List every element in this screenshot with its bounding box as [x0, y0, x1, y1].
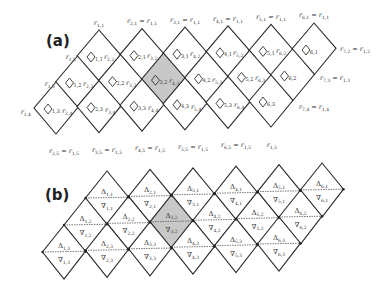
panel-a-rhombus-lattice: 1,12,13,14,15,16,11,22,23,24,25,26,21,32…: [21, 11, 371, 156]
cell-index: 6,2: [289, 75, 297, 81]
cell-index: 3,2: [160, 79, 168, 85]
cell-index: 6,1: [310, 49, 318, 55]
panel-b-triangle-lattice: Δ1,1∇1,1Δ2,1∇2,1Δ3,1∇3,1Δ4,1∇4,1Δ5,1∇5,1…: [41, 163, 344, 279]
vertex-label: r7,3 = r1,3: [320, 74, 350, 83]
cell-index: 2,1: [138, 54, 146, 60]
vertex-label: r1,5: [267, 141, 277, 150]
vertex-label: r2,1 = r1,1: [127, 17, 157, 26]
cell-index: 1,1: [95, 56, 103, 62]
vertex-label: r3,1 = r1,1: [170, 16, 200, 25]
vertex-label: r3,5 = r1,5: [92, 146, 122, 155]
vertex-label: r5,5 = r1,5: [178, 143, 208, 152]
cell-index: 5,1: [267, 50, 275, 56]
vertex-label: r4,5 = r1,5: [135, 144, 165, 153]
cell-index: 6,3: [267, 101, 275, 107]
cell-index: 4,1: [224, 51, 232, 57]
vertex-label: r1,1: [94, 19, 104, 28]
vertex-label: r1,3: [45, 80, 55, 89]
cell-index: 2,2: [117, 80, 125, 86]
vertex-label: r1,2: [66, 53, 76, 62]
cell-index: 4,3: [181, 103, 189, 109]
cell-index: 5,2: [246, 76, 254, 82]
cell-index: 1,2: [74, 82, 82, 88]
cell-index: 2,3: [95, 106, 103, 112]
cell-index: 5,3: [224, 102, 232, 108]
vertex-label: r6,5 = r1,5: [221, 141, 251, 150]
panel-a-label: (a): [46, 32, 70, 50]
panel-b-label: (b): [45, 186, 69, 204]
vertex-label: r2,5 = r1,5: [49, 147, 79, 156]
vertex-label: r1,4: [21, 108, 31, 117]
vertex-label: r4,1 = r1,1: [213, 15, 243, 24]
cell-index: 3,3: [138, 105, 146, 111]
cell-index: 4,2: [203, 77, 211, 83]
vertex-label: r6,1 = r1,1: [299, 11, 329, 20]
vertex-label: r5,1 = r1,1: [256, 13, 286, 22]
vertex-label: r7,4 = r1,4: [299, 103, 329, 112]
vertex-label: r7,2 = r1,2: [340, 45, 370, 54]
cell-index: 3,1: [181, 53, 189, 59]
cell-index: 1,3: [52, 108, 60, 114]
lattice-diagram: 1,12,13,14,15,16,11,22,23,24,25,26,21,32…: [0, 0, 391, 295]
